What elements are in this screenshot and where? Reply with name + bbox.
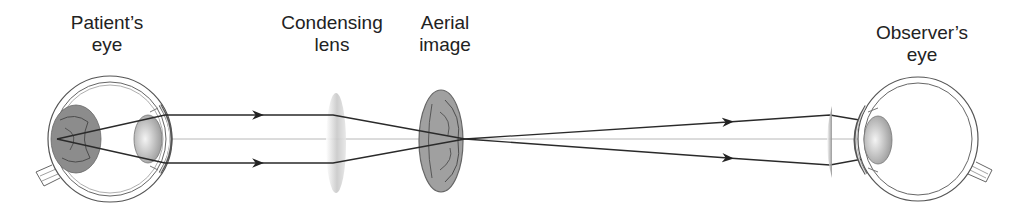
patient-eye-icon xyxy=(36,76,172,202)
condensing-lens-icon xyxy=(326,93,346,193)
observer-lens-icon xyxy=(827,106,832,178)
observer-eye-icon xyxy=(855,77,992,201)
light-rays xyxy=(57,115,972,165)
optics-diagram xyxy=(0,0,1020,211)
